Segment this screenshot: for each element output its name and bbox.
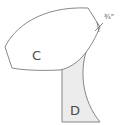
piece-d-label: D: [70, 103, 80, 118]
pattern-piece-c: [5, 8, 100, 71]
pattern-diagram: C D ¾": [0, 0, 120, 125]
measurement-label: ¾": [104, 13, 114, 21]
piece-c-label: C: [32, 48, 41, 63]
